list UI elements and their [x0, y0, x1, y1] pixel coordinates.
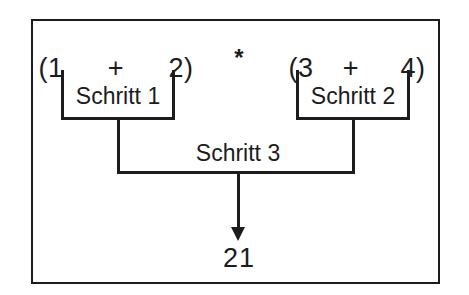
result-arrow-shaft: [237, 173, 240, 229]
result-arrow-head: [231, 227, 245, 241]
expression-token-multiply: *: [234, 46, 243, 70]
step-2-bracket-right-arm: [407, 70, 410, 120]
step-3-label: Schritt 3: [193, 142, 283, 165]
step-1-bracket-right-arm: [172, 70, 175, 120]
step-2-to-step-3-connector: [352, 119, 355, 173]
step-1-bracket-left-arm: [61, 70, 64, 120]
step-1-label: Schritt 1: [73, 85, 163, 108]
step-1-to-step-3-connector: [117, 119, 120, 173]
step-2-bracket-left-arm: [296, 70, 299, 120]
step-3-bracket-base: [117, 171, 355, 174]
diagram-canvas: (1 + 2) * (3 + 4) Schritt 1 Schritt 2 Sc…: [0, 0, 469, 295]
expression-token-close-paren-2: 4): [400, 55, 425, 82]
expression-token-open-paren-2: (3: [288, 55, 313, 82]
expression-token-plus-2: +: [343, 55, 359, 82]
expression-token-open-paren-1: (1: [38, 55, 63, 82]
result-value: 21: [223, 245, 255, 272]
diagram-frame: (1 + 2) * (3 + 4) Schritt 1 Schritt 2 Sc…: [31, 19, 440, 284]
expression-token-plus-1: +: [108, 55, 124, 82]
step-2-label: Schritt 2: [308, 85, 398, 108]
